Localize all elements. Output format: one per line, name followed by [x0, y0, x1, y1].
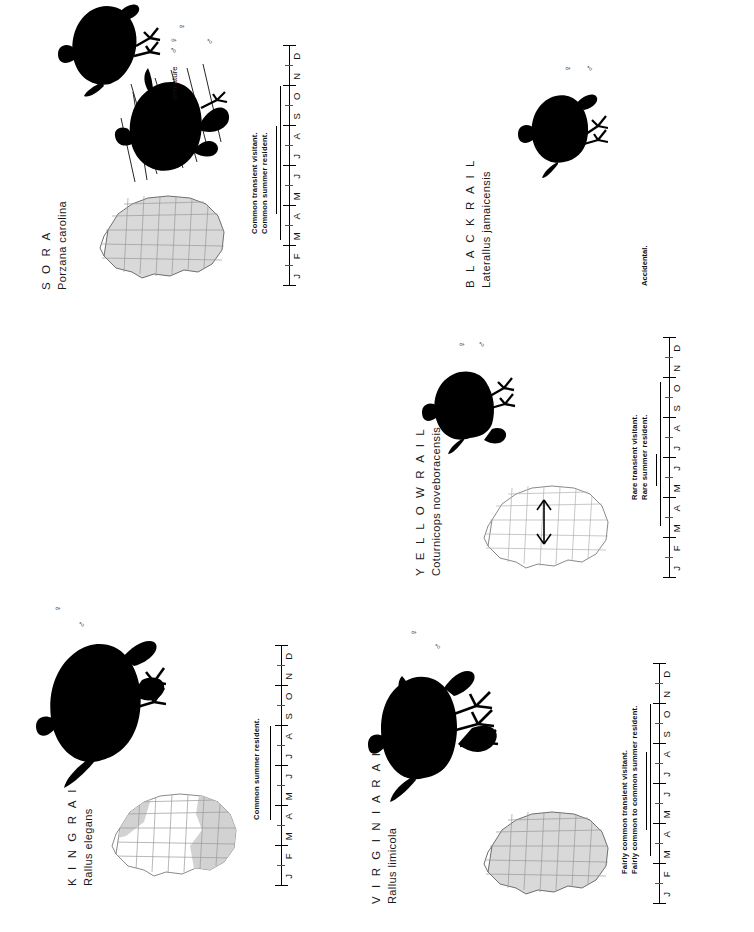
month-label: J [661, 771, 672, 776]
axis-tick [283, 205, 296, 206]
month-label: D [671, 344, 682, 351]
axis-tick [665, 437, 673, 438]
month-label: J [291, 153, 302, 158]
month-label: N [671, 364, 682, 371]
axis-line [659, 664, 660, 904]
sex-label-female-yellow-rail: ♀ [456, 341, 467, 348]
axis-tick [277, 785, 285, 786]
month-label: M [283, 832, 294, 840]
month-label: S [661, 731, 672, 738]
axis-tick [663, 577, 676, 578]
month-label: J [671, 465, 682, 470]
month-label: J [291, 173, 302, 178]
axis-line [669, 338, 670, 578]
month-label: O [291, 92, 302, 100]
sex-label-male-sora: ♂ [204, 38, 215, 45]
seasonal-chart-virginia-rail: Fairly common transient visitant. Fairly… [646, 664, 672, 904]
range-map-yellow-rail [482, 480, 612, 572]
scientific-name: Laterallus jamaicensis [480, 158, 492, 288]
species-block-virginia-rail: V I R G I N I A R A I L Rallus limicola [346, 618, 746, 918]
axis-tick [653, 743, 666, 744]
axis-tick [275, 805, 288, 806]
bird-illustration-yellow-rail [422, 357, 517, 462]
month-label: M [661, 850, 672, 858]
bird-illustration-king-rail [36, 620, 166, 790]
month-axis-virginia-rail: J F M A M J J A S O N D [646, 664, 672, 904]
status-labels-sora: Common transient visitant. Common summer… [250, 132, 271, 234]
month-label: F [671, 545, 682, 551]
axis-tick [275, 885, 288, 886]
month-label: M [671, 524, 682, 532]
axis-tick [655, 843, 663, 844]
status-bar-resident [646, 752, 647, 830]
month-label: M [291, 232, 302, 240]
month-label: J [283, 773, 294, 778]
axis-tick [663, 497, 676, 498]
axis-tick [655, 723, 663, 724]
month-label: F [283, 853, 294, 859]
axis-tick [283, 45, 296, 46]
axis-tick [285, 225, 293, 226]
month-label: D [661, 670, 672, 677]
month-label: A [671, 425, 682, 432]
status-labels-yellow-rail: Rare transient visitant. Rare summer res… [630, 415, 651, 500]
axis-tick [665, 477, 673, 478]
seasonal-chart-yellow-rail: Rare transient visitant. Rare summer res… [656, 338, 682, 578]
month-axis-sora: J F M A M J J A S O N D [276, 46, 302, 286]
sex-label-male-yellow-rail: ♂ [476, 341, 487, 348]
month-axis-yellow-rail: J F M A M J J A S O N D [656, 338, 682, 578]
month-label: O [283, 692, 294, 700]
month-label: D [283, 652, 294, 659]
status-labels-virginia-rail: Fairly common transient visitant. Fairly… [620, 706, 641, 874]
month-label: F [291, 253, 302, 259]
axis-tick [655, 803, 663, 804]
status-line: Rare transient visitant. [630, 415, 640, 500]
scientific-name: Porzana carolina [56, 201, 68, 290]
month-label: J [661, 791, 672, 796]
axis-tick [653, 663, 666, 664]
month-label: O [661, 710, 672, 718]
month-axis-king-rail: J F M A M J J A S O N D [268, 646, 294, 886]
axis-tick [275, 645, 288, 646]
month-label: M [283, 792, 294, 800]
axis-tick [275, 685, 288, 686]
sex-label-male-black-rail: ♂ [584, 65, 595, 72]
seasonal-chart-king-rail: Common summer resident. J F M [268, 646, 294, 886]
axis-tick [655, 683, 663, 684]
axis-tick [275, 725, 288, 726]
species-title-sora: S O R A Porzana carolina [40, 201, 68, 290]
month-label: A [283, 813, 294, 820]
status-bar-transient [280, 86, 281, 240]
month-label: J [661, 891, 672, 896]
range-map-virginia-rail [482, 806, 612, 898]
axis-tick [283, 285, 296, 286]
axis-tick [283, 125, 296, 126]
axis-tick [663, 457, 676, 458]
month-label: S [671, 405, 682, 412]
axis-tick [663, 537, 676, 538]
month-label: S [291, 113, 302, 120]
axis-tick [665, 397, 673, 398]
axis-line [281, 646, 282, 886]
month-label: S [283, 713, 294, 720]
seasonal-chart-sora: Common transient visitant. Common summer… [276, 46, 302, 286]
axis-tick [655, 763, 663, 764]
sex-label-male-king-rail: ♂ [76, 621, 87, 628]
status-bar-resident [276, 126, 277, 214]
axis-tick [653, 863, 666, 864]
month-label: N [291, 72, 302, 79]
range-map-sora [98, 190, 228, 282]
month-label: A [671, 505, 682, 512]
axis-tick [655, 883, 663, 884]
axis-tick [653, 823, 666, 824]
axis-tick [277, 745, 285, 746]
status-label-black-rail: Accidental. [640, 245, 649, 286]
axis-tick [275, 765, 288, 766]
month-label: N [661, 690, 672, 697]
status-line: Rare summer resident. [640, 415, 650, 500]
axis-tick [665, 557, 673, 558]
month-label: A [291, 213, 302, 220]
axis-tick [285, 65, 293, 66]
bird-illustration-black-rail [518, 82, 608, 182]
axis-tick [275, 845, 288, 846]
